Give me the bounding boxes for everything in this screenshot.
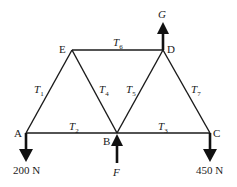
force-label-c: 450 N xyxy=(196,164,223,176)
force-arrow-b xyxy=(111,134,123,163)
member-label-t4: T4 xyxy=(99,83,109,98)
member-t7 xyxy=(163,50,210,133)
force-label-a: 200 N xyxy=(13,164,40,176)
member-t5 xyxy=(117,50,163,133)
arrow-up-icon xyxy=(111,134,123,146)
arrow-down-icon xyxy=(203,149,217,162)
node-label-e: E xyxy=(59,43,66,55)
node-label-d: D xyxy=(167,43,175,55)
member-label-t1: T1 xyxy=(34,83,44,98)
truss-diagram: A B C D E T1 T2 T3 T4 T5 T6 T7 200 N F 4… xyxy=(0,0,237,187)
node-label-a: A xyxy=(14,127,22,139)
node-label-b: B xyxy=(103,135,110,147)
member-t4 xyxy=(72,50,117,133)
member-label-t5: T5 xyxy=(126,83,136,98)
arrow-up-icon xyxy=(157,22,169,34)
node-label-c: C xyxy=(213,127,220,139)
force-label-b: F xyxy=(112,166,120,178)
force-label-d: G xyxy=(158,8,166,20)
arrow-down-icon xyxy=(19,149,33,162)
member-label-t7: T7 xyxy=(191,83,201,98)
member-label-t6: T6 xyxy=(113,36,123,51)
member-t1 xyxy=(26,50,72,133)
